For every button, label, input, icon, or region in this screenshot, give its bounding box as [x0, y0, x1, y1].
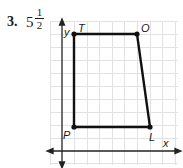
vertex-P-point	[71, 124, 76, 129]
x-axis-label: x	[162, 137, 169, 149]
y-axis-label: y	[63, 26, 71, 38]
grid	[50, 21, 178, 165]
vertex-O-label: O	[141, 22, 150, 34]
x-axis-left-arrow-icon	[47, 149, 53, 154]
y-axis	[60, 19, 65, 168]
coordinate-graph: y x T O L P	[0, 0, 183, 168]
y-axis-down-arrow-icon	[60, 162, 65, 168]
x-axis-right-arrow-icon	[175, 149, 181, 154]
vertex-L-point	[147, 124, 152, 129]
vertex-L-label: L	[149, 131, 155, 143]
x-axis	[47, 149, 181, 154]
vertex-T-point	[71, 31, 76, 36]
y-axis-up-arrow-icon	[60, 19, 65, 25]
vertex-T-label: T	[78, 22, 86, 34]
vertex-P-label: P	[63, 129, 71, 141]
vertex-O-point	[134, 31, 139, 36]
